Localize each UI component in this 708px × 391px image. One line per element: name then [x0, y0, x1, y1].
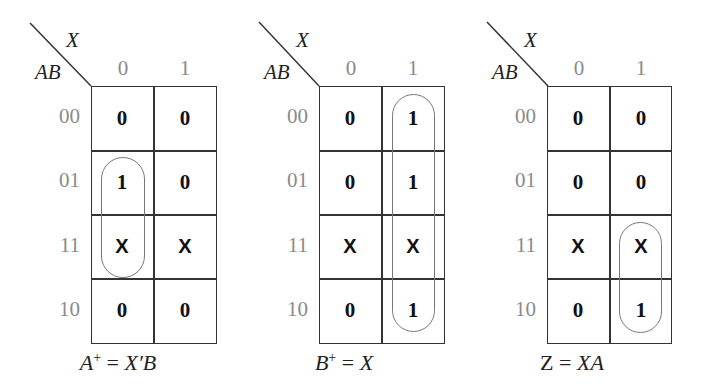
equation-lhs: A: [80, 350, 93, 375]
row-label: 11: [40, 233, 80, 258]
cell-00-0: 0: [319, 86, 381, 150]
equation-rhs: X′B: [125, 350, 157, 375]
equation-lhs: Z: [540, 350, 553, 375]
equation: A+ = X′B: [0, 350, 236, 376]
row-label: 00: [40, 104, 80, 129]
cell-10-0: 0: [319, 278, 381, 342]
cell-10-1: 1: [610, 278, 672, 342]
column-label: 1: [382, 56, 444, 81]
row-label: 11: [268, 233, 308, 258]
row-variables: AB: [492, 60, 518, 85]
row-label: 00: [268, 104, 308, 129]
equation-sup: +: [93, 350, 101, 365]
cell-01-0: 1: [91, 150, 153, 214]
equation: Z = XA: [454, 350, 690, 376]
cell-10-0: 0: [91, 278, 153, 342]
cell-00-1: 0: [154, 86, 216, 150]
diagonal-divider: [472, 0, 572, 100]
row-label: 10: [496, 297, 536, 322]
column-variable: X: [66, 28, 79, 53]
cell-01-1: 0: [610, 150, 672, 214]
cell-11-0: X: [91, 214, 153, 278]
kmap-a-plus: X AB 0 1 00 01 11 10 0 0 1 0 X X 0 0 A+ …: [0, 0, 236, 391]
column-label: 0: [548, 56, 610, 81]
equation-rhs: XA: [577, 350, 604, 375]
equation-rhs: X: [360, 350, 373, 375]
equation-eq: =: [336, 350, 359, 375]
column-label: 0: [320, 56, 382, 81]
cell-01-0: 0: [319, 150, 381, 214]
cell-10-1: 0: [154, 278, 216, 342]
row-variables: AB: [35, 60, 61, 85]
cell-11-1: X: [154, 214, 216, 278]
equation-eq: =: [101, 350, 124, 375]
row-label: 00: [496, 104, 536, 129]
diagonal-divider: [0, 0, 100, 100]
cell-00-0: 0: [547, 86, 609, 150]
kmap-z: X AB 0 1 00 01 11 10 0 0 0 0 X X 0 1 Z =…: [472, 0, 708, 391]
column-label: 1: [610, 56, 672, 81]
cell-01-1: 0: [154, 150, 216, 214]
cell-11-1: X: [382, 214, 444, 278]
row-label: 01: [496, 168, 536, 193]
column-variable: X: [296, 28, 309, 53]
row-label: 10: [40, 297, 80, 322]
equation: B+ = X: [226, 350, 462, 376]
cell-11-0: X: [547, 214, 609, 278]
column-label: 1: [154, 56, 216, 81]
kmap-b-plus: X AB 0 1 00 01 11 10 0 1 0 1 X X 0 1 B+ …: [236, 0, 472, 391]
cell-10-0: 0: [547, 278, 609, 342]
cell-00-0: 0: [91, 86, 153, 150]
equation-eq: =: [554, 350, 577, 375]
column-variable: X: [524, 28, 537, 53]
row-label: 10: [268, 297, 308, 322]
cell-00-1: 0: [610, 86, 672, 150]
cell-01-0: 0: [547, 150, 609, 214]
cell-01-1: 1: [382, 150, 444, 214]
row-label: 11: [496, 233, 536, 258]
cell-11-0: X: [319, 214, 381, 278]
diagonal-divider: [236, 0, 336, 100]
equation-lhs: B: [315, 350, 328, 375]
cell-11-1: X: [610, 214, 672, 278]
row-variables: AB: [264, 60, 290, 85]
cell-00-1: 1: [382, 86, 444, 150]
row-label: 01: [268, 168, 308, 193]
row-label: 01: [40, 168, 80, 193]
cell-10-1: 1: [382, 278, 444, 342]
column-label: 0: [92, 56, 154, 81]
